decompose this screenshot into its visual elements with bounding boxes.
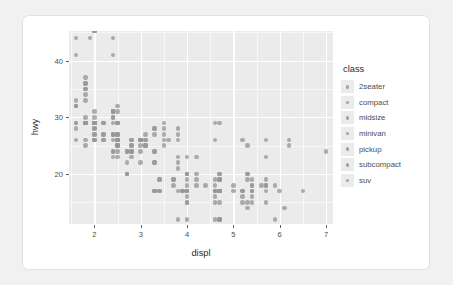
data-point	[138, 143, 143, 148]
data-point	[213, 177, 218, 182]
data-point	[171, 177, 176, 182]
data-point	[74, 138, 79, 143]
data-point	[162, 138, 167, 143]
data-point	[176, 189, 181, 194]
data-point	[185, 189, 190, 194]
data-point	[111, 53, 116, 58]
legend-item-pickup[interactable]: pickup	[341, 141, 427, 157]
data-point	[259, 183, 264, 188]
data-point	[231, 183, 236, 188]
data-point	[166, 138, 171, 143]
data-point	[250, 200, 255, 205]
legend-key-swatch	[341, 80, 354, 93]
data-point	[277, 189, 282, 194]
data-point	[111, 115, 116, 120]
data-point	[185, 155, 190, 160]
data-point	[115, 104, 120, 109]
data-point	[83, 121, 88, 126]
data-point	[83, 143, 88, 148]
x-tick-label: 2	[92, 230, 96, 239]
data-point	[185, 177, 190, 182]
data-point	[250, 189, 255, 194]
data-point	[138, 138, 143, 143]
data-point	[115, 138, 120, 143]
data-point	[74, 53, 79, 58]
legend-item-midsize[interactable]: midsize	[341, 110, 427, 126]
gridline	[69, 89, 333, 90]
data-point	[162, 132, 167, 137]
y-tick-label: 20	[55, 170, 63, 179]
data-point	[125, 160, 130, 165]
data-point	[74, 126, 79, 131]
data-point	[231, 189, 236, 194]
legend-item-label: midsize	[359, 113, 385, 122]
y-axis-title: hwy	[30, 119, 40, 136]
data-point	[115, 109, 120, 114]
data-point	[162, 121, 167, 126]
data-point	[83, 138, 88, 143]
legend: class 2seatercompactmidsizeminivanpickup…	[341, 64, 427, 188]
x-tick-label: 4	[185, 230, 189, 239]
data-point	[83, 92, 88, 97]
data-point	[264, 183, 269, 188]
gridline	[69, 32, 333, 33]
data-point	[111, 149, 116, 154]
data-point	[240, 200, 245, 205]
legend-item-subcompact[interactable]: subcompact	[341, 157, 427, 173]
data-point	[217, 217, 222, 222]
legend-items: 2seatercompactmidsizeminivanpickupsubcom…	[341, 79, 427, 188]
data-point	[245, 206, 250, 211]
data-point	[213, 194, 218, 199]
legend-title: class	[343, 64, 427, 74]
data-point	[194, 183, 199, 188]
data-point	[245, 143, 250, 148]
data-point	[185, 183, 190, 188]
legend-item-2seater[interactable]: 2seater	[341, 79, 427, 95]
data-point	[176, 126, 181, 131]
data-point	[152, 126, 157, 131]
data-point	[264, 155, 269, 160]
data-point	[176, 160, 181, 165]
data-point	[250, 183, 255, 188]
data-point	[217, 172, 222, 177]
data-point	[213, 183, 218, 188]
data-point	[92, 132, 97, 137]
legend-item-label: minivan	[359, 129, 386, 138]
data-point	[194, 177, 199, 182]
gridline	[69, 61, 333, 62]
x-tick-mark	[187, 225, 188, 228]
x-tick-label: 3	[139, 230, 143, 239]
legend-item-label: suv	[359, 176, 371, 185]
data-point	[213, 121, 218, 126]
data-point	[282, 206, 287, 211]
data-point	[176, 217, 181, 222]
data-point	[185, 217, 190, 222]
x-tick-mark	[94, 225, 95, 228]
legend-key-swatch	[341, 143, 354, 156]
data-point	[162, 126, 167, 131]
data-point	[74, 121, 79, 126]
x-tick-mark	[326, 225, 327, 228]
data-point	[101, 121, 106, 126]
data-point	[273, 183, 278, 188]
data-point	[129, 138, 134, 143]
y-tick-label: 30	[55, 113, 63, 122]
data-point	[194, 155, 199, 160]
legend-item-suv[interactable]: suv	[341, 173, 427, 189]
data-point	[115, 143, 120, 148]
data-point	[129, 143, 134, 148]
legend-item-minivan[interactable]: minivan	[341, 126, 427, 142]
legend-item-compact[interactable]: compact	[341, 95, 427, 111]
data-point	[185, 172, 190, 177]
screenshot-stage: 203040 234567 displ hwy class 2seatercom…	[0, 0, 453, 285]
data-point	[176, 166, 181, 171]
legend-item-label: compact	[359, 98, 388, 107]
data-point	[111, 155, 116, 160]
data-point	[250, 177, 255, 182]
plot-panel	[69, 31, 333, 224]
data-point	[245, 200, 250, 205]
data-point	[74, 36, 79, 41]
data-point	[129, 149, 134, 154]
data-point	[273, 217, 278, 222]
data-point	[217, 189, 222, 194]
